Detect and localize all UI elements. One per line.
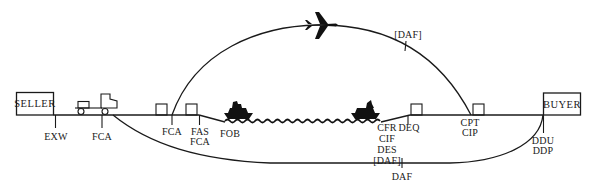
- quay-slope-origin: [199, 115, 225, 122]
- container-icon: [411, 104, 422, 115]
- cip-label: CIP: [462, 127, 478, 138]
- cif-label: CIF: [379, 133, 395, 144]
- des-daf-label: [DAF]: [373, 155, 401, 166]
- container-icon: [186, 104, 197, 115]
- truck-icon: [75, 94, 117, 115]
- incoterms-diagram: SELLER BUYER: [0, 0, 599, 185]
- quay-slope-destination: [381, 115, 410, 122]
- buyer-label: BUYER: [543, 99, 581, 110]
- ship-icon: [224, 101, 253, 119]
- buyer-node: BUYER: [543, 93, 581, 115]
- ddp-label: DDP: [533, 145, 554, 156]
- fob-label: FOB: [220, 128, 240, 139]
- fca-truck-label: FCA: [92, 131, 113, 142]
- seller-node: SELLER: [14, 93, 56, 116]
- fca-terminal-label: FCA: [162, 126, 183, 137]
- ship-icon: [351, 100, 380, 119]
- air-daf-tick: [405, 41, 406, 51]
- air-daf-label: [DAF]: [394, 29, 422, 40]
- land-daf-label: DAF: [392, 171, 413, 182]
- sea-waves-icon: [225, 120, 380, 123]
- seller-label: SELLER: [14, 98, 56, 109]
- des-label: DES: [377, 144, 397, 155]
- cfr-label: CFR: [377, 122, 397, 133]
- air-route-arc: [172, 25, 471, 115]
- exw-label: EXW: [44, 131, 68, 142]
- container-icon: [156, 104, 167, 115]
- container-icon: [473, 104, 484, 115]
- deq-label: DEQ: [398, 122, 420, 133]
- fas-fca-label: FCA: [190, 136, 211, 147]
